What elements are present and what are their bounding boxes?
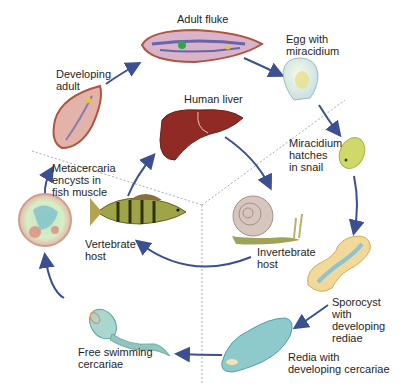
label-miracidium: Miracidium hatches in snail xyxy=(289,137,342,173)
label-invertebrate-host: Invertebrate host xyxy=(257,246,316,270)
label-cercariae: Free swimming cercariae xyxy=(78,346,153,370)
snail-illustration xyxy=(232,196,302,245)
label-redia: Redia with developing cercariae xyxy=(288,351,390,375)
fluke-life-cycle-diagram: Adult fluke Egg with miracidium Miracidi… xyxy=(0,0,403,388)
label-metacercaria: Metacercaria encysts in fish muscle xyxy=(52,162,116,198)
label-adult-fluke: Adult fluke xyxy=(177,13,228,25)
adult-fluke-illustration xyxy=(142,30,262,62)
label-sporocyst: Sporocyst with developing rediae xyxy=(332,296,385,344)
fish-illustration xyxy=(90,194,186,226)
developing-adult-illustration xyxy=(54,86,101,148)
redia-illustration xyxy=(222,318,292,372)
label-human-liver: Human liver xyxy=(184,93,243,105)
human-liver-illustration xyxy=(160,110,243,160)
label-vertebrate-host: Vertebrate host xyxy=(85,238,136,262)
label-developing-adult: Developing adult xyxy=(56,68,111,92)
sporocyst-illustration xyxy=(308,236,371,291)
egg-illustration xyxy=(283,58,318,100)
label-egg: Egg with miracidium xyxy=(286,33,339,57)
metacercaria-cyst-illustration xyxy=(19,194,71,246)
